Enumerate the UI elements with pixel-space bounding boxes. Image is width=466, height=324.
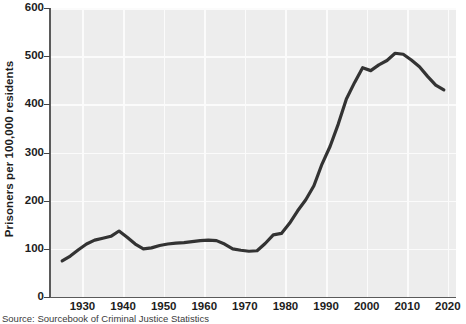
y-axis-tick-labels: 0100200300400500600 [0, 0, 44, 321]
y-axis-tick-mark [44, 249, 50, 250]
y-axis-tick-mark [44, 104, 50, 105]
y-axis-tick-mark [44, 8, 50, 9]
y-axis-tick-label: 300 [2, 147, 44, 159]
data-series-line [50, 8, 456, 297]
y-axis-tick-label: 400 [2, 99, 44, 111]
y-axis-tick-mark [44, 153, 50, 154]
y-axis-tick-label: 100 [2, 243, 44, 255]
x-axis-tick-label: 2020 [424, 299, 466, 313]
y-axis-tick-mark [44, 56, 50, 57]
y-axis-tick-mark [44, 201, 50, 202]
plot-area [50, 8, 456, 297]
x-axis-spine [50, 297, 456, 299]
y-axis-tick-label: 500 [2, 50, 44, 62]
source-note: Source: Sourcebook of Criminal Justice S… [2, 313, 209, 324]
series-polyline [62, 53, 444, 261]
y-axis-tick-label: 200 [2, 195, 44, 207]
y-axis-tick-mark [44, 297, 50, 298]
y-axis-tick-label: 600 [2, 2, 44, 14]
